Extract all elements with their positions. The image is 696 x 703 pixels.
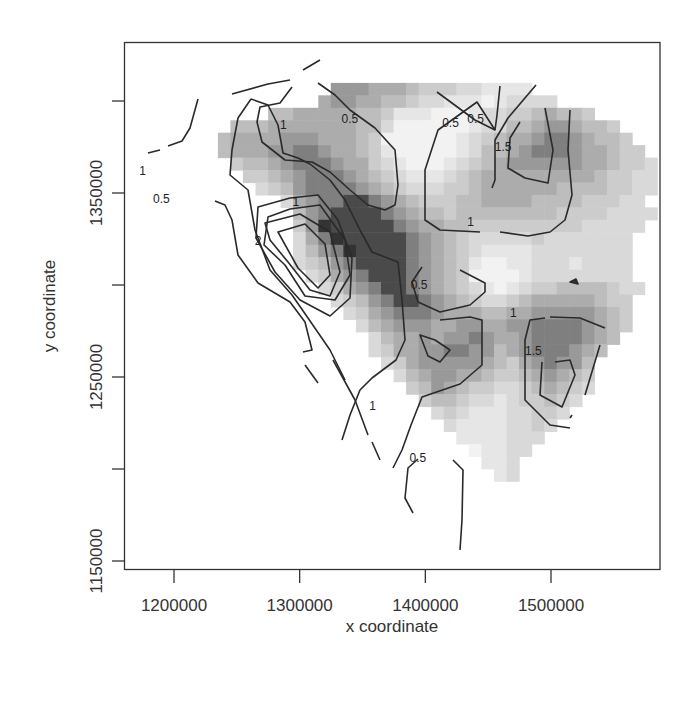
heatmap-cell <box>557 232 570 245</box>
heatmap-cell <box>481 295 494 308</box>
heatmap-cell <box>406 245 419 258</box>
heatmap-cell <box>481 232 494 245</box>
heatmap-cell <box>419 245 432 258</box>
heatmap-cell <box>557 158 570 171</box>
heatmap-cell <box>481 195 494 208</box>
heatmap-cell <box>394 295 407 308</box>
heatmap-cell <box>331 245 344 258</box>
heatmap-cell <box>469 195 482 208</box>
heatmap-cell <box>406 183 419 196</box>
heatmap-cell <box>494 207 507 220</box>
heatmap-cell <box>406 319 419 332</box>
heatmap-cell <box>507 245 520 258</box>
heatmap-cell <box>243 158 256 171</box>
heatmap-cell <box>532 145 545 158</box>
heatmap-cell <box>594 295 607 308</box>
heatmap-cell <box>607 183 620 196</box>
heatmap-cell <box>645 170 658 183</box>
contour-label: 1 <box>280 118 287 132</box>
heatmap-cell <box>343 220 356 233</box>
heatmap-cell <box>419 357 432 370</box>
heatmap-cell <box>419 83 432 96</box>
heatmap-cell <box>481 444 494 457</box>
heatmap-cell <box>494 469 507 482</box>
heatmap-cell <box>557 282 570 295</box>
heatmap-cell <box>507 444 520 457</box>
heatmap-cell <box>594 245 607 258</box>
heatmap-cell <box>331 145 344 158</box>
heatmap-cell <box>544 295 557 308</box>
heatmap-cell <box>469 257 482 270</box>
heatmap-cell <box>394 120 407 133</box>
heatmap-cell <box>381 95 394 108</box>
heatmap-cell <box>569 295 582 308</box>
heatmap-cell <box>594 220 607 233</box>
heatmap-cell <box>569 257 582 270</box>
heatmap-cell <box>268 170 281 183</box>
heatmap-cell <box>607 195 620 208</box>
heatmap-cell <box>419 307 432 320</box>
heatmap-cell <box>306 108 319 121</box>
heatmap-cell <box>356 207 369 220</box>
heatmap-cell <box>557 120 570 133</box>
heatmap-cell <box>494 195 507 208</box>
heatmap-cell <box>594 133 607 146</box>
heatmap-cell <box>419 232 432 245</box>
heatmap-cell <box>632 195 645 208</box>
heatmap-cell <box>369 95 382 108</box>
heatmap-cell <box>569 332 582 345</box>
heatmap-cell <box>507 108 520 121</box>
heatmap-cell <box>494 95 507 108</box>
heatmap-cell <box>519 407 532 420</box>
heatmap-cell <box>343 133 356 146</box>
heatmap-cell <box>632 158 645 171</box>
heatmap-cell <box>369 120 382 133</box>
contour-label: 1 <box>467 215 474 229</box>
heatmap-cell <box>594 145 607 158</box>
heatmap-cell <box>481 257 494 270</box>
heatmap-cell <box>519 270 532 283</box>
heatmap-cell <box>594 195 607 208</box>
heatmap-cell <box>268 183 281 196</box>
heatmap-cell <box>519 158 532 171</box>
heatmap-cell <box>607 120 620 133</box>
heatmap-cell <box>519 207 532 220</box>
heatmap-cell <box>544 319 557 332</box>
heatmap-cell <box>507 419 520 432</box>
contour-line-0.5-bottom <box>405 459 463 550</box>
heatmap-cell <box>594 282 607 295</box>
heatmap-cell <box>532 120 545 133</box>
heatmap-cell <box>519 220 532 233</box>
heatmap-cell <box>557 332 570 345</box>
heatmap-cell <box>481 319 494 332</box>
heatmap-cell <box>582 220 595 233</box>
heatmap-cell <box>532 419 545 432</box>
heatmap-cell <box>356 245 369 258</box>
heatmap-cell <box>607 295 620 308</box>
heatmap-cell <box>569 133 582 146</box>
heatmap-cell <box>607 307 620 320</box>
heatmap-cell <box>620 158 633 171</box>
heatmap-cell <box>406 108 419 121</box>
heatmap-cell <box>481 357 494 370</box>
heatmap-cell <box>481 369 494 382</box>
heatmap-cell <box>532 108 545 121</box>
heatmap-cell <box>406 158 419 171</box>
heatmap-cell <box>620 220 633 233</box>
heatmap-cell <box>469 232 482 245</box>
heatmap-cell <box>469 183 482 196</box>
heatmap-cell <box>481 220 494 233</box>
heatmap-cell <box>331 170 344 183</box>
heatmap-cell <box>394 170 407 183</box>
contour-line-1-top <box>232 60 320 94</box>
heatmap-cell <box>582 158 595 171</box>
heatmap-cell <box>331 133 344 146</box>
heatmap-cell <box>481 432 494 445</box>
heatmap-cell <box>620 232 633 245</box>
heatmap-cell <box>532 195 545 208</box>
heatmap-cell <box>494 295 507 308</box>
heatmap-cell <box>620 195 633 208</box>
heatmap-cell <box>293 232 306 245</box>
heatmap-cell <box>381 83 394 96</box>
contour-label: 0.5 <box>411 278 428 292</box>
